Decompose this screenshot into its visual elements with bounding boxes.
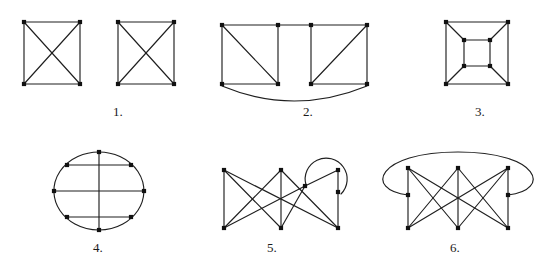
- edge-c1-c6: [222, 25, 278, 84]
- vertex-p1: [97, 150, 101, 154]
- vertex-v1: [406, 193, 410, 197]
- vertex-p6: [65, 215, 69, 219]
- vertex-a3: [22, 82, 26, 86]
- edge-o4-i4: [490, 66, 508, 84]
- vertex-b1: [116, 20, 120, 24]
- vertex-t1: [222, 168, 226, 172]
- vertex-p7: [52, 189, 56, 193]
- vertex-b3: [116, 82, 120, 86]
- vertex-p2: [129, 163, 133, 167]
- vertex-w3: [506, 226, 510, 230]
- edge-c4-c7: [311, 25, 367, 84]
- vertex-a4: [78, 82, 82, 86]
- vertex-a1: [22, 20, 26, 24]
- vertex-i4: [488, 64, 492, 68]
- figure-3-diagram: [430, 8, 540, 96]
- vertex-c7: [309, 82, 313, 86]
- vertex-a2: [78, 20, 82, 24]
- figure-1-diagram: [6, 8, 196, 96]
- figure-3-label: 3.: [460, 104, 500, 120]
- vertex-c6: [276, 82, 280, 86]
- vertex-c8: [365, 82, 369, 86]
- vertex-i3: [462, 64, 466, 68]
- vertex-u2: [456, 166, 460, 170]
- two-triangulated-squares-joined-by-top-edge-and-bottom-arc: [206, 8, 396, 104]
- vertex-w2: [456, 226, 460, 230]
- vertex-i2: [488, 38, 492, 42]
- vertex-t3: [336, 168, 340, 172]
- vertex-c3: [309, 23, 313, 27]
- bipartite-graph-with-large-outer-arc: [382, 150, 542, 236]
- vertex-b2: [279, 226, 283, 230]
- figure-2-label: 2.: [288, 104, 328, 120]
- vertex-c4: [365, 23, 369, 27]
- vertex-p8: [65, 163, 69, 167]
- edge-o1-i1: [446, 22, 464, 40]
- edge-m1-t3: [305, 170, 338, 186]
- vertex-b4: [172, 82, 176, 86]
- figure-2-diagram: [206, 8, 396, 104]
- two-k4-squares-with-diagonals: [6, 8, 196, 96]
- vertex-b1: [222, 226, 226, 230]
- bipartite-graph-with-right-loop: [210, 156, 350, 236]
- figure-1-label: 1.: [98, 104, 138, 120]
- figure-5-label: 5.: [252, 240, 292, 256]
- vertex-u3: [506, 166, 510, 170]
- edge-o3-i3: [446, 66, 464, 84]
- vertex-o1: [444, 20, 448, 24]
- figure-5-diagram: [210, 156, 350, 236]
- vertex-p5: [97, 228, 101, 232]
- cube-graph-nested-squares: [430, 8, 540, 96]
- vertex-o2: [506, 20, 510, 24]
- graph-figures-page: 1.2.3.4.5.6.: [0, 0, 551, 263]
- edge-o2-i2: [490, 22, 508, 40]
- figure-4-label: 4.: [78, 240, 118, 256]
- vertex-v2: [506, 193, 510, 197]
- vertex-p3: [142, 189, 146, 193]
- vertex-p4: [129, 215, 133, 219]
- bottom-arc-c5-c8: [222, 86, 367, 101]
- vertex-t2: [279, 168, 283, 172]
- vertex-c5: [220, 82, 224, 86]
- figure-4-diagram: [48, 146, 152, 238]
- circle-eight-cycle-with-chords: [48, 146, 152, 238]
- vertex-m2: [336, 190, 340, 194]
- figure-6-label: 6.: [435, 240, 475, 256]
- vertex-u1: [406, 166, 410, 170]
- vertex-o4: [506, 82, 510, 86]
- figure-6-diagram: [382, 150, 542, 236]
- vertex-m1: [303, 184, 307, 188]
- vertex-o3: [444, 82, 448, 86]
- vertex-i1: [462, 38, 466, 42]
- vertex-c1: [220, 23, 224, 27]
- vertex-w1: [406, 226, 410, 230]
- vertex-c2: [276, 23, 280, 27]
- vertex-b3: [336, 226, 340, 230]
- edge-t2-b3: [281, 170, 338, 228]
- vertex-b2: [172, 20, 176, 24]
